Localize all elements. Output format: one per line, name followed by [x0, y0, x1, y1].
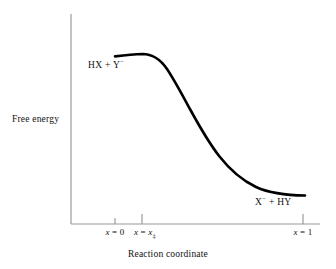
free-energy-diagram: Free energy Reaction coordinate HX + Y− …	[0, 0, 336, 269]
y-axis-title: Free energy	[12, 115, 59, 125]
plot-canvas	[0, 0, 336, 269]
reactant-formula: HX + Y	[88, 60, 120, 70]
tick-0-value: = 0	[110, 227, 125, 237]
tick-ts-equals: =	[138, 227, 148, 237]
reactant-state-label: HX + Y−	[88, 61, 124, 71]
product-formula-suffix: + HY	[266, 197, 291, 207]
tick-ts-doubledagger-subscript: ‡	[153, 232, 157, 239]
x-tick-label-0: x = 0	[105, 228, 124, 237]
x-tick-label-1: x = 1	[293, 228, 312, 237]
x-axis-title: Reaction coordinate	[0, 250, 336, 260]
product-state-label: X− + HY	[255, 198, 292, 208]
reactant-charge-superscript: −	[120, 58, 124, 65]
free-energy-curve	[115, 54, 305, 196]
tick-1-value: = 1	[298, 227, 313, 237]
x-tick-label-transition-state: x = x‡	[134, 228, 156, 237]
